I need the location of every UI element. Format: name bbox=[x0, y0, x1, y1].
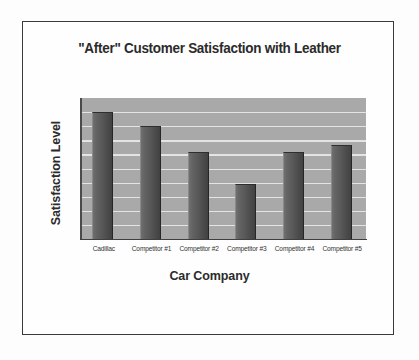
plot-area bbox=[80, 98, 366, 239]
bar bbox=[140, 126, 161, 239]
x-tick-label: Cadillac bbox=[80, 245, 128, 252]
bar bbox=[92, 112, 113, 239]
bar bbox=[235, 184, 256, 239]
x-tick-label: Competitor #3 bbox=[223, 245, 271, 252]
bar-series bbox=[80, 98, 366, 239]
chart-title: "After" Customer Satisfaction with Leath… bbox=[15, 40, 405, 56]
page-canvas: "After" Customer Satisfaction with Leath… bbox=[0, 0, 419, 360]
x-tick-label: Competitor #1 bbox=[128, 245, 176, 252]
y-axis-title: Satisfaction Level bbox=[49, 108, 67, 238]
x-tick-label: Competitor #5 bbox=[318, 245, 366, 252]
x-axis-line bbox=[80, 239, 367, 241]
bar bbox=[188, 152, 209, 239]
x-tick-labels: CadillacCompetitor #1Competitor #2Compet… bbox=[80, 245, 366, 259]
y-axis-line bbox=[80, 98, 82, 240]
x-tick-label: Competitor #2 bbox=[175, 245, 223, 252]
x-axis-title: Car Company bbox=[0, 269, 419, 283]
bar bbox=[283, 152, 304, 239]
bar bbox=[331, 145, 352, 239]
x-tick-label: Competitor #4 bbox=[271, 245, 319, 252]
